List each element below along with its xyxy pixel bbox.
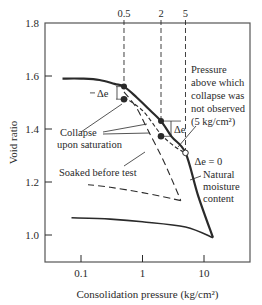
annotation-pressure-line: (5 kg/cm²)	[191, 116, 236, 128]
annotation-leader	[190, 176, 201, 180]
y-tick-label: 1.8	[25, 17, 39, 29]
annotation-leader	[103, 133, 150, 134]
annotation-natural-line: content	[203, 193, 234, 204]
annotation-leader	[103, 124, 147, 132]
top-pressure-label: 0.5	[117, 8, 130, 19]
delta-e-label: Δe	[97, 88, 109, 99]
top-pressure-label: 5	[183, 8, 188, 19]
annotation-soaked: Soaked before test	[59, 167, 137, 178]
top-pressure-label: 2	[158, 8, 163, 19]
y-axis-label: Void ratio	[7, 120, 19, 164]
y-tick-label: 1.4	[25, 123, 39, 135]
series-line	[124, 92, 181, 201]
x-axis-label: Consolidation pressure (kg/cm²)	[77, 288, 219, 301]
annotation-natural-line: moisture	[203, 181, 240, 192]
delta-e-label: Δe	[174, 124, 186, 135]
annotation-collapse: Collapse	[60, 127, 97, 138]
series-line	[72, 218, 214, 238]
y-tick-label: 1.6	[25, 70, 39, 82]
point-no-collapse	[183, 150, 189, 156]
annotation-pressure-line: Pressure	[191, 64, 227, 75]
y-tick-label: 1.2	[25, 176, 39, 188]
x-tick-label: 0.1	[74, 267, 88, 279]
annotation-natural-line: Natural	[203, 169, 235, 180]
void-ratio-chart: 1.01.21.41.61.80.1110Consolidation press…	[0, 0, 262, 305]
annotation-pressure-line: above which	[191, 77, 245, 88]
annotation-pressure-line: not observed	[191, 103, 246, 114]
delta-e-zero-label: Δe = 0	[194, 156, 222, 167]
y-tick-label: 1.0	[25, 229, 39, 241]
series-line	[88, 185, 181, 201]
annotation-collapse-line2: upon saturation	[57, 139, 123, 150]
x-tick-label: 10	[199, 267, 211, 279]
annotation-pressure-line: collapse was	[191, 90, 244, 101]
x-tick-label: 1	[140, 267, 146, 279]
annotation-leader	[124, 152, 145, 166]
